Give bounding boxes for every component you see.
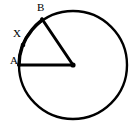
circle-center-dot <box>70 62 75 67</box>
point-label-x: X <box>13 28 21 39</box>
geometry-canvas <box>0 0 130 131</box>
arc-A-to-B <box>19 20 42 65</box>
point-label-a: A <box>10 55 18 66</box>
circle-geometry-diagram: B X A <box>0 0 130 131</box>
arc-point-marker-X <box>21 43 26 48</box>
point-label-b: B <box>37 2 44 13</box>
point-B-dot <box>40 17 44 21</box>
radius-to-B <box>42 19 73 65</box>
